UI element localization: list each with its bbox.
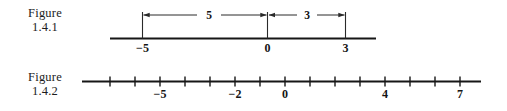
- figure-sheet: Figure 1.4.1 Figure 1.4.2: [0, 0, 507, 111]
- figure-1-measure-3-label: 3: [304, 9, 310, 21]
- figure-2-tick-label-seven: 7: [457, 87, 463, 101]
- figure-1-tick-label-three: 3: [343, 41, 349, 55]
- figure-1-measure-5-label: 5: [206, 9, 212, 21]
- figures-vector-layer: 5 3 −5 0 3: [0, 0, 507, 111]
- figure-2-tick-label-neg5: −5: [154, 87, 167, 101]
- figure-2-graphic: −5 −2 0 4 7: [82, 77, 481, 102]
- figure-1-measure-3: 3: [269, 9, 345, 21]
- figure-1-tick-label-zero: 0: [265, 41, 271, 55]
- figure-1-tick-label-neg5: −5: [136, 41, 149, 55]
- figure-2-tick-label-neg2: −2: [229, 87, 242, 101]
- figure-2-tick-label-four: 4: [382, 87, 388, 101]
- figure-1-graphic: 5 3 −5 0 3: [110, 9, 376, 55]
- figure-2-tick-label-zero: 0: [282, 87, 288, 101]
- figure-1-measure-5: 5: [144, 9, 267, 21]
